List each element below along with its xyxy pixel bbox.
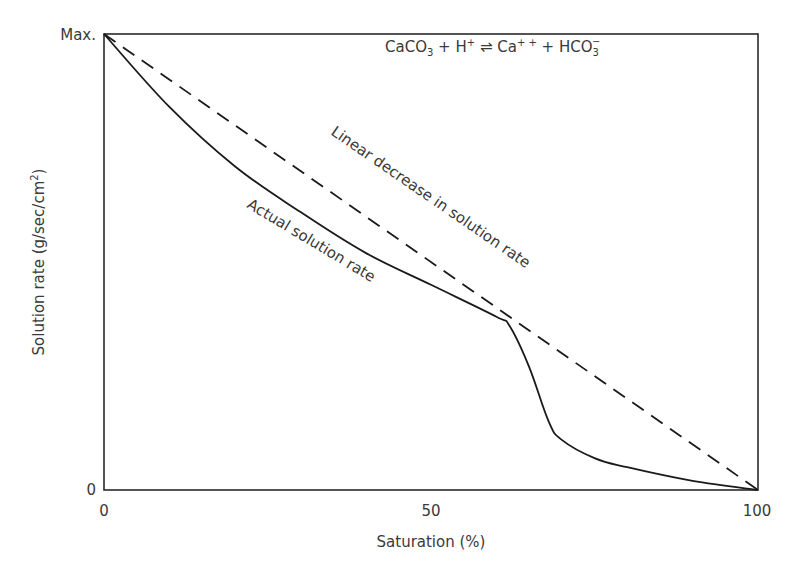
chart: Max. 0 0 50 100 Saturation (%) Solution … <box>0 0 798 574</box>
x-tick-50: 50 <box>421 502 440 520</box>
x-axis-label: Saturation (%) <box>377 533 486 551</box>
linear-decrease-line <box>104 34 758 490</box>
x-tick-100: 100 <box>743 502 772 520</box>
chemical-equation: CaCO3 + H+ ⇌ Ca+ + + HCO3− <box>385 36 600 58</box>
x-tick-0: 0 <box>99 502 109 520</box>
y-tick-max: Max. <box>60 26 96 44</box>
actual-rate-annotation: Actual solution rate <box>244 195 379 286</box>
y-axis-label: Solution rate (g/sec/cm2) <box>29 169 48 356</box>
y-tick-zero: 0 <box>86 481 96 499</box>
